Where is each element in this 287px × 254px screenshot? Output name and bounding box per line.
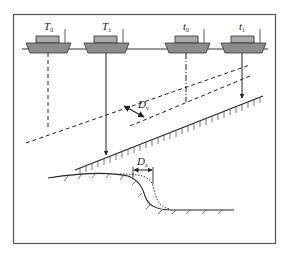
label-Dh: Da [136, 155, 148, 168]
ship-hull [26, 43, 71, 53]
seabed-profile-solid [48, 173, 234, 214]
true-seabed-slope [75, 96, 263, 174]
ship-T1: T1 [84, 20, 129, 53]
ship-label-T0: T0 [44, 20, 53, 33]
ship-cabin [175, 36, 198, 43]
ship-label-T1: T1 [102, 20, 111, 33]
ship-cabin [36, 36, 59, 43]
ship-t0: t0 [165, 20, 210, 53]
survey-diagram: T0 T1 t0 t1 [0, 0, 287, 254]
ship-cabin [231, 36, 254, 43]
ship-cabin [94, 36, 117, 43]
ship-T0: T0 [26, 20, 71, 53]
label-Dv: Dv [137, 98, 149, 111]
ship-hull [165, 43, 210, 53]
ship-label-t0: t0 [183, 20, 189, 33]
ship-hull [221, 43, 266, 53]
ship-t1: t1 [221, 20, 266, 53]
seabed-profile-dotted [120, 174, 170, 209]
ship-hull [84, 43, 129, 53]
ship-label-t1: t1 [239, 20, 245, 33]
apparent-seabed-dashed-upper [130, 72, 250, 125]
